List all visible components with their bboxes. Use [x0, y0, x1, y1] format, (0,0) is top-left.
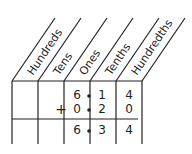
digit-cell: 3: [98, 123, 106, 137]
digit-cell: 4: [125, 123, 133, 137]
decimal-point: [87, 129, 91, 133]
header-tenths: Tenths: [102, 41, 133, 79]
decimal-point: [87, 108, 91, 112]
digit-cell: 4: [125, 88, 133, 102]
digit-cell: 6: [73, 123, 81, 137]
plus-operator: +: [55, 101, 67, 117]
digit-cell: 2: [98, 102, 106, 116]
digit-cell: 0: [73, 102, 81, 116]
place-value-chart: Hundreds Tens Ones Tenths Hundredths 6 1…: [0, 0, 192, 154]
header-hundredths: Hundredths: [129, 17, 176, 78]
header-ones: Ones: [77, 47, 104, 78]
digit-cell: 0: [125, 102, 133, 116]
header-tens: Tens: [50, 50, 75, 78]
digit-cell: 1: [98, 88, 106, 102]
decimal-point: [87, 94, 91, 98]
digit-cell: 6: [73, 88, 81, 102]
